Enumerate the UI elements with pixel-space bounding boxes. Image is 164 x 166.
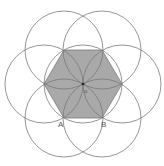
label-b: B bbox=[101, 120, 106, 129]
label-a: A bbox=[58, 120, 64, 129]
center-point bbox=[82, 83, 85, 86]
diagram-canvas: A B o bbox=[0, 0, 164, 166]
